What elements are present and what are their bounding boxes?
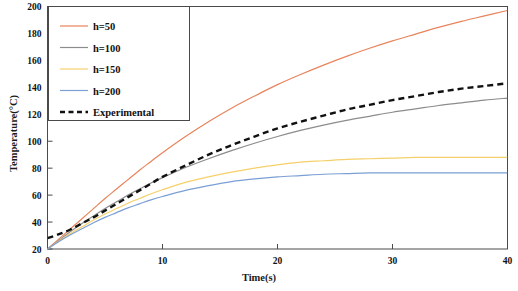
x-tick-label: 20 <box>273 256 283 266</box>
x-tick-label: 40 <box>503 256 513 266</box>
y-tick-label: 60 <box>32 191 42 201</box>
legend-label-experimental: Experimental <box>93 107 154 118</box>
y-tick-label: 140 <box>27 83 42 93</box>
legend-label-h-100: h=100 <box>93 43 121 54</box>
y-tick-label: 180 <box>27 29 42 39</box>
y-tick-label: 120 <box>27 110 42 120</box>
x-tick-label: 10 <box>158 256 168 266</box>
series-line-h-200 <box>48 173 508 249</box>
x-axis-title: Time(s) <box>0 272 518 283</box>
series-line-h-150 <box>48 157 508 249</box>
x-tick-label: 0 <box>45 256 50 266</box>
y-tick-label: 80 <box>32 164 42 174</box>
y-axis-title: Temperature(°C) <box>8 69 19 199</box>
chart-figure: 20406080100120140160180200 010203040 h=5… <box>0 0 518 291</box>
legend-label-h-50: h=50 <box>93 21 115 32</box>
legend-label-h-200: h=200 <box>93 86 121 97</box>
y-tick-label: 40 <box>32 218 42 228</box>
legend: h=50h=100h=150h=200Experimental <box>49 7 190 121</box>
x-axis-ticks: 010203040 <box>45 244 512 266</box>
y-tick-label: 20 <box>32 245 42 255</box>
y-tick-label: 200 <box>27 2 42 12</box>
y-tick-label: 160 <box>27 56 42 66</box>
line-chart: 20406080100120140160180200 010203040 h=5… <box>0 0 518 291</box>
y-tick-label: 100 <box>27 137 42 147</box>
x-tick-label: 30 <box>388 256 398 266</box>
legend-label-h-150: h=150 <box>93 64 121 75</box>
